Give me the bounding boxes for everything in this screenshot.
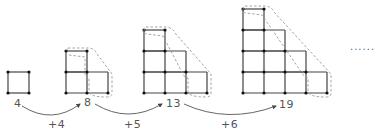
figure-3 (142, 27, 211, 97)
increment-arrow-1 (22, 104, 80, 115)
increment-2-label: +5 (124, 119, 141, 130)
staircase-grid-diagram (0, 0, 374, 135)
figure-3-count: 13 (166, 98, 181, 109)
figure-2-count: 8 (84, 97, 92, 108)
increment-1-label: +4 (48, 119, 65, 130)
figure-4 (241, 6, 331, 97)
figure-2 (64, 48, 112, 97)
increment-3-label: +6 (221, 119, 238, 130)
increment-arrow-3 (184, 104, 276, 115)
figure-1-count: 4 (14, 98, 22, 109)
new-cells-highlight (144, 27, 211, 97)
figure-4-count: 19 (279, 99, 294, 110)
figure-1 (6, 70, 30, 94)
increment-arrow-2 (95, 104, 162, 114)
continuation-ellipsis: ...... (350, 42, 374, 52)
